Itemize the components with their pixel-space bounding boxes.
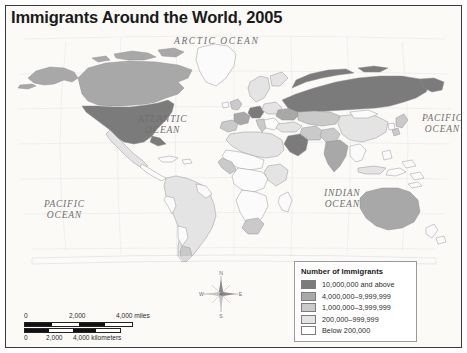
legend-item: 10,000,000 and above <box>301 280 410 289</box>
legend-swatch <box>301 292 316 301</box>
scale-segment <box>25 323 52 326</box>
scale-bar-kilometers <box>24 328 121 333</box>
scale-segment <box>105 323 132 326</box>
scale-miles-tick-0: 0 <box>24 312 28 319</box>
legend-item: 4,000,000–9,999,999 <box>301 292 410 301</box>
scale-bar-miles <box>24 322 133 327</box>
projection-note: Robinson projection <box>24 346 154 349</box>
compass-label-north: N <box>219 270 223 276</box>
legend-swatch <box>301 315 316 324</box>
legend-swatch <box>301 326 316 335</box>
scale-segment <box>73 329 97 332</box>
map-figure: .c { stroke:#8d8d8d; stroke-width:0.45; … <box>0 0 467 353</box>
scale-segment <box>96 329 120 332</box>
legend-item-label: 200,000–999,999 <box>322 315 379 324</box>
scale-segment <box>52 323 79 326</box>
scale-km-tick-0: 0 <box>24 334 28 341</box>
legend-item: 1,000,000–3,999,999 <box>301 303 410 312</box>
legend-item: Below 200,000 <box>301 326 410 335</box>
legend-swatch <box>301 303 316 312</box>
scale-km-tick-2: 4,000 kilometers <box>73 334 121 341</box>
page-title: Immigrants Around the World, 2005 <box>11 8 282 27</box>
compass-label-west: W <box>199 291 204 297</box>
legend-swatch <box>301 280 316 289</box>
scale-segment <box>49 329 73 332</box>
scale-segment <box>25 329 49 332</box>
compass-label-south: S <box>219 313 223 319</box>
legend-item: 200,000–999,999 <box>301 315 410 324</box>
legend-item-label: 10,000,000 and above <box>322 280 395 289</box>
scale-miles-ticks: 0 2,000 4,000 miles <box>24 312 154 321</box>
map-legend: Number of Immigrants 10,000,000 and abov… <box>294 261 417 342</box>
map-frame: .c { stroke:#8d8d8d; stroke-width:0.45; … <box>5 5 462 348</box>
legend-item-label: 4,000,000–9,999,999 <box>322 292 391 301</box>
scale-miles-tick-1: 2,000 <box>69 312 86 319</box>
scale-kilometers-ticks: 0 2,000 4,000 kilometers <box>24 334 154 343</box>
scale-miles-tick-2: 4,000 miles <box>116 312 150 319</box>
legend-item-label: 1,000,000–3,999,999 <box>322 303 391 312</box>
scale-bar-block: 0 2,000 4,000 miles 0 2,000 4,000 kilome… <box>24 312 154 348</box>
legend-item-label: Below 200,000 <box>322 326 370 335</box>
legend-title: Number of Immigrants <box>301 267 410 276</box>
scale-segment <box>79 323 106 326</box>
compass-label-east: E <box>239 291 243 297</box>
scale-km-tick-1: 2,000 <box>46 334 63 341</box>
compass-rose: N S E W <box>199 269 243 319</box>
